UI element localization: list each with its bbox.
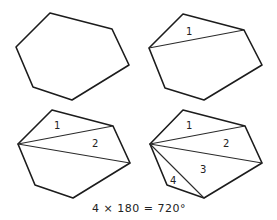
triangle-label: 1 (186, 26, 192, 37)
hexagon-outline (16, 13, 129, 100)
panel-three-diagonals: 1234 (150, 110, 262, 198)
triangle-label: 1 (54, 120, 60, 131)
angle-sum-formula: 4 × 180 = 720° (92, 202, 186, 215)
triangle-label: 1 (186, 120, 192, 131)
triangle-label: 4 (170, 175, 176, 186)
panel-one-diagonal: 1 (149, 14, 262, 100)
triangle-label: 3 (200, 164, 206, 175)
panel-hexagon (16, 13, 129, 100)
diagonal-line (18, 144, 130, 163)
triangle-label: 2 (92, 138, 98, 149)
panel-two-diagonals: 12 (18, 110, 130, 198)
hexagon-outline (149, 14, 262, 100)
triangle-label: 2 (223, 138, 229, 149)
hexagon-triangulation-diagram: 1 12 1234 4 × 180 = 720° (0, 0, 277, 220)
